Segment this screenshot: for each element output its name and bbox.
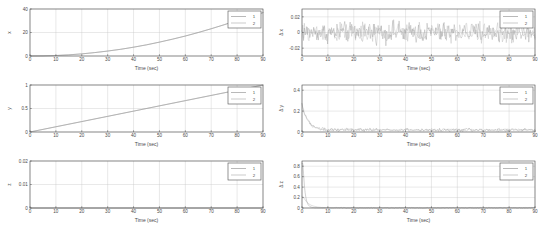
x-tick-label: 70 — [481, 57, 487, 62]
legend-box — [228, 87, 261, 104]
y-tick-label: 0.02 — [19, 159, 28, 164]
x-tick-label: 40 — [131, 57, 137, 62]
x-tick-label: 80 — [507, 209, 513, 214]
x-tick-label: 0 — [29, 209, 32, 214]
legend-box — [500, 87, 533, 104]
y-axis-title: Δ z — [279, 181, 284, 188]
plot-z-error: 0102030405060708090Time (sec)00.20.40.60… — [272, 152, 544, 228]
x-tick-label: 70 — [209, 57, 215, 62]
x-tick-label: 90 — [260, 57, 266, 62]
x-tick-label: 90 — [260, 209, 266, 214]
x-tick-label: 60 — [455, 133, 461, 138]
y-tick-label: 0.4 — [293, 185, 300, 190]
legend: 12 — [228, 87, 261, 104]
x-tick-label: 10 — [53, 209, 59, 214]
x-tick-label: 30 — [105, 133, 111, 138]
plot-x-error-canvas: 0102030405060708090Time (sec)-0.0200.02Δ… — [272, 0, 544, 76]
plot-z-position-canvas: 0102030405060708090Time (sec)00.010.02z1… — [0, 152, 272, 228]
y-axis-title: Δ y — [279, 105, 284, 112]
y-tick-label: 0.01 — [19, 182, 28, 187]
x-tick-label: 30 — [377, 133, 383, 138]
x-tick-label: 20 — [351, 133, 357, 138]
x-tick-label: 0 — [29, 133, 32, 138]
x-tick-label: 20 — [351, 57, 357, 62]
x-tick-label: 80 — [235, 133, 241, 138]
x-tick-label: 70 — [209, 209, 215, 214]
x-tick-label: 0 — [301, 57, 304, 62]
x-axis-title: Time (sec) — [135, 217, 159, 223]
x-tick-label: 60 — [455, 209, 461, 214]
y-tick-label: 0.6 — [293, 174, 300, 179]
y-axis: -0.0200.02 — [289, 15, 303, 51]
legend-box — [228, 163, 261, 180]
y-tick-label: 0 — [25, 206, 28, 211]
y-axis-title: x — [7, 31, 12, 34]
legend-box — [500, 11, 533, 28]
y-tick-label: 0.02 — [291, 15, 300, 20]
plot-x-position-canvas: 0102030405060708090Time (sec)02040x12 — [0, 0, 272, 76]
x-tick-label: 70 — [481, 133, 487, 138]
x-tick-label: 90 — [532, 209, 538, 214]
y-axis-title: y — [7, 107, 12, 110]
x-tick-label: 40 — [131, 209, 137, 214]
x-tick-label: 40 — [403, 209, 409, 214]
plot-x-position: 0102030405060708090Time (sec)02040x12 — [0, 0, 272, 76]
y-tick-label: 0.2 — [293, 195, 300, 200]
x-tick-label: 20 — [79, 133, 85, 138]
x-tick-label: 90 — [532, 57, 538, 62]
x-tick-label: 30 — [377, 209, 383, 214]
y-tick-label: 0 — [297, 130, 300, 135]
figure-panel-grid: 0102030405060708090Time (sec)02040x12010… — [0, 0, 544, 228]
x-tick-label: 70 — [209, 133, 215, 138]
x-tick-label: 10 — [325, 133, 331, 138]
y-tick-label: 20 — [23, 30, 29, 35]
x-tick-label: 80 — [235, 57, 241, 62]
legend: 12 — [228, 163, 261, 180]
x-axis-title: Time (sec) — [407, 65, 431, 71]
legend: 12 — [228, 11, 261, 28]
x-tick-label: 10 — [53, 133, 59, 138]
x-tick-label: 60 — [455, 57, 461, 62]
x-tick-label: 30 — [105, 209, 111, 214]
y-tick-label: 40 — [23, 7, 29, 12]
y-tick-label: 0.2 — [293, 109, 300, 114]
y-tick-label: 1 — [25, 83, 28, 88]
x-axis-title: Time (sec) — [135, 65, 159, 71]
y-tick-label: 0.4 — [293, 88, 300, 93]
x-tick-label: 40 — [403, 57, 409, 62]
x-axis-title: Time (sec) — [407, 217, 431, 223]
x-tick-label: 30 — [105, 57, 111, 62]
x-tick-label: 30 — [377, 57, 383, 62]
x-tick-label: 10 — [325, 57, 331, 62]
x-axis-title: Time (sec) — [407, 141, 431, 147]
legend: 12 — [500, 11, 533, 28]
x-tick-label: 80 — [235, 209, 241, 214]
legend-box — [228, 11, 261, 28]
x-axis-title: Time (sec) — [135, 141, 159, 147]
x-tick-label: 20 — [79, 57, 85, 62]
y-axis-title: z — [7, 183, 12, 186]
x-tick-label: 0 — [29, 57, 32, 62]
plot-y-position: 0102030405060708090Time (sec)00.51y12 — [0, 76, 272, 152]
x-tick-label: 50 — [157, 209, 163, 214]
x-tick-label: 80 — [507, 133, 513, 138]
plot-y-error-canvas: 0102030405060708090Time (sec)00.20.4Δ y1… — [272, 76, 544, 152]
y-tick-label: -0.02 — [289, 46, 300, 51]
y-tick-label: 0 — [25, 54, 28, 59]
x-tick-label: 80 — [507, 57, 513, 62]
x-tick-label: 20 — [351, 209, 357, 214]
legend-box — [500, 163, 533, 180]
y-tick-label: 0 — [297, 30, 300, 35]
x-tick-label: 10 — [53, 57, 59, 62]
x-tick-label: 0 — [301, 133, 304, 138]
x-tick-label: 70 — [481, 209, 487, 214]
x-tick-label: 50 — [157, 133, 163, 138]
x-tick-label: 60 — [183, 209, 189, 214]
legend: 12 — [500, 87, 533, 104]
x-tick-label: 10 — [325, 209, 331, 214]
y-tick-label: 0 — [297, 206, 300, 211]
x-tick-label: 90 — [532, 133, 538, 138]
plot-y-error: 0102030405060708090Time (sec)00.20.4Δ y1… — [272, 76, 544, 152]
plot-z-error-canvas: 0102030405060708090Time (sec)00.20.40.60… — [272, 152, 544, 228]
x-tick-label: 90 — [260, 133, 266, 138]
